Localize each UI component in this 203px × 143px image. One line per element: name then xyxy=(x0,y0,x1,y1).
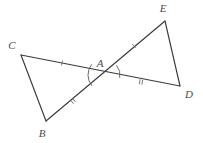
tick-CA xyxy=(62,61,63,65)
vertex-label-E: E xyxy=(159,2,167,14)
vertex-label-C: C xyxy=(8,39,16,51)
angle-arc-DAE xyxy=(116,65,120,78)
segment-BE xyxy=(46,21,165,121)
tick-AD xyxy=(139,80,142,85)
segment-CB xyxy=(21,55,46,121)
segment-ED xyxy=(165,21,180,86)
vertex-label-D: D xyxy=(184,88,193,100)
geometry-figure: A B C D E xyxy=(0,0,203,143)
geometry-canvas: A B C D E xyxy=(0,0,203,143)
vertex-label-A: A xyxy=(96,57,104,69)
vertex-label-B: B xyxy=(39,127,46,139)
